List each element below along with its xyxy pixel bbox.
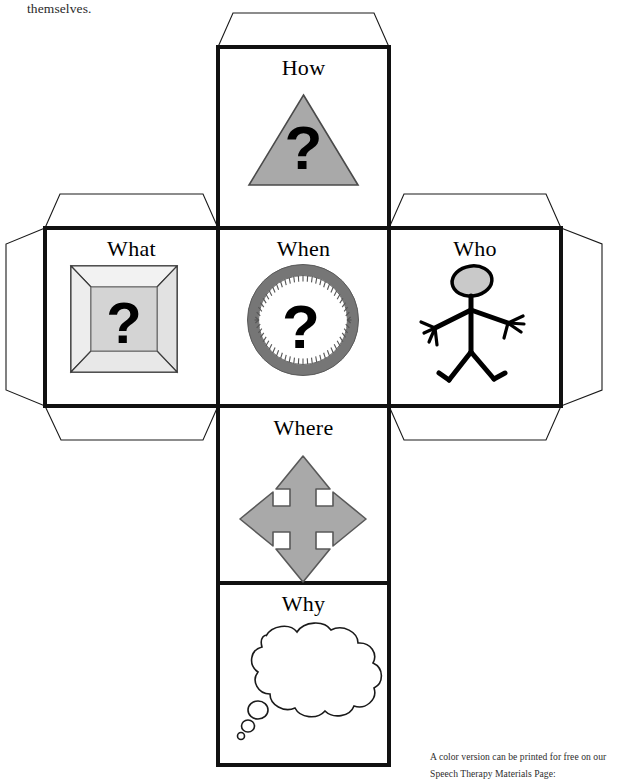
- what-icon-group: ?: [71, 266, 177, 372]
- footer-note: A color version can be printed for free …: [430, 748, 615, 782]
- tab-left-what: [6, 228, 45, 406]
- face-who: [389, 228, 561, 406]
- tab-right-who: [561, 228, 602, 406]
- footer-line-2: Speech Therapy Materials Page:: [430, 765, 615, 782]
- tab-top-how: [218, 13, 389, 47]
- thought-bubble-small-3: [238, 733, 245, 740]
- page-canvas: themselves.: [0, 0, 619, 784]
- what-question-mark-glyph: ?: [106, 290, 141, 355]
- tab-top-who: [389, 194, 561, 228]
- cube-net-diagram: ? ?: [0, 0, 619, 784]
- tab-bottom-who: [389, 406, 561, 440]
- clock-question-icon: ?: [282, 292, 320, 361]
- thought-bubble-small-1: [248, 701, 268, 719]
- tab-top-what: [45, 194, 218, 228]
- thought-bubble-small-2: [242, 720, 255, 732]
- footer-line-1: A color version can be printed for free …: [430, 748, 615, 765]
- when-icon-group: ?: [248, 265, 359, 376]
- tab-bottom-what: [45, 406, 218, 440]
- how-question-mark-glyph: ?: [285, 113, 323, 182]
